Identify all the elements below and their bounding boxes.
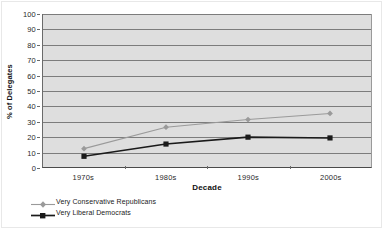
x-axis-tick-mark bbox=[125, 166, 126, 169]
y-axis-tick-mark bbox=[37, 168, 40, 169]
data-point-marker bbox=[163, 141, 168, 146]
y-axis-tick-mark bbox=[37, 137, 40, 138]
y-axis-tick-mark bbox=[37, 122, 40, 123]
y-axis-tick-mark bbox=[37, 106, 40, 107]
y-axis-tick-label: 40 bbox=[27, 102, 36, 111]
x-axis-tick-mark bbox=[290, 166, 291, 169]
y-axis-tick-label: 10 bbox=[27, 148, 36, 157]
y-axis-tick-label: 20 bbox=[27, 133, 36, 142]
series-line bbox=[84, 113, 330, 148]
y-axis-tick-label: 0 bbox=[32, 164, 36, 173]
legend-item-label: Very Liberal Democrats bbox=[56, 209, 131, 216]
x-axis-title: Decade bbox=[42, 183, 372, 192]
y-axis-tick-label: 70 bbox=[27, 56, 36, 65]
y-axis-tick-label: 50 bbox=[27, 87, 36, 96]
data-point-marker bbox=[327, 111, 333, 117]
y-axis-tick-mark bbox=[37, 14, 40, 15]
chart-legend: Very Conservative RepublicansVery Libera… bbox=[30, 196, 250, 218]
x-axis-tick-label: 1990s bbox=[238, 173, 259, 182]
y-axis-tick-label: 80 bbox=[27, 40, 36, 49]
legend-item-label: Very Conservative Republicans bbox=[56, 198, 156, 205]
y-axis-tick-mark bbox=[37, 153, 40, 154]
plot-area bbox=[42, 14, 372, 168]
data-point-marker bbox=[81, 146, 87, 152]
x-axis-tick-mark bbox=[207, 166, 208, 169]
y-axis-tick-label: 30 bbox=[27, 117, 36, 126]
x-axis-tick-label: 1980s bbox=[155, 173, 176, 182]
series-layer bbox=[43, 14, 371, 167]
y-axis-tick-labels: 1009080706050403020100 bbox=[0, 14, 40, 168]
y-axis-tick-mark bbox=[37, 45, 40, 46]
y-axis-tick-mark bbox=[37, 29, 40, 30]
x-axis-tick-labels: 1970s1980s1990s2000s bbox=[42, 170, 372, 184]
legend-item[interactable]: Very Conservative Republicans bbox=[30, 196, 250, 207]
line-chart: % of Delegates 1009080706050403020100 19… bbox=[0, 0, 383, 229]
data-point-marker bbox=[81, 154, 86, 159]
data-point-marker bbox=[327, 135, 332, 140]
x-axis-tick-label: 2000s bbox=[320, 173, 341, 182]
series-line bbox=[84, 137, 330, 156]
y-axis-tick-label: 100 bbox=[23, 10, 36, 19]
y-axis-tick-label: 90 bbox=[27, 25, 36, 34]
y-axis-tick-mark bbox=[37, 91, 40, 92]
square-icon bbox=[30, 207, 56, 218]
data-point-marker bbox=[245, 135, 250, 140]
y-axis-tick-mark bbox=[37, 60, 40, 61]
diamond-icon bbox=[30, 196, 56, 207]
data-point-marker bbox=[163, 124, 169, 130]
y-axis-tick-mark bbox=[37, 76, 40, 77]
legend-item[interactable]: Very Liberal Democrats bbox=[30, 207, 250, 218]
data-point-marker bbox=[245, 117, 251, 123]
y-axis-tick-label: 60 bbox=[27, 71, 36, 80]
x-axis-tick-label: 1970s bbox=[73, 173, 94, 182]
